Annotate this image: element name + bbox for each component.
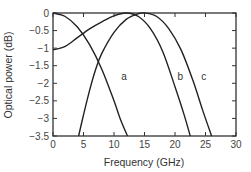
x-axis-label: Frequency (GHz) bbox=[104, 156, 185, 168]
y-tick-label: −1.5 bbox=[29, 60, 49, 71]
y-tick-label: −0.5 bbox=[29, 25, 49, 36]
x-tick-label: 0 bbox=[50, 139, 56, 150]
curve-c bbox=[79, 13, 212, 136]
curve-a bbox=[53, 13, 127, 136]
curve-label-c: c bbox=[201, 71, 206, 82]
curve-label-b: b bbox=[177, 71, 183, 82]
y-tick-label: −1 bbox=[38, 43, 50, 54]
y-axis-label: Optical power (dB) bbox=[2, 32, 14, 119]
x-tick-label: 10 bbox=[108, 139, 120, 150]
y-tick-label: −3.5 bbox=[29, 131, 49, 142]
y-tick-label: −2 bbox=[38, 78, 50, 89]
x-tick-label: 5 bbox=[81, 139, 87, 150]
line-chart: abc 051015202530 0−0.5−1−1.5−2−2.5−3−3.5… bbox=[0, 0, 251, 172]
x-tick-label: 30 bbox=[230, 139, 242, 150]
x-tick-label: 20 bbox=[169, 139, 181, 150]
curves bbox=[53, 13, 212, 136]
x-tick-label: 25 bbox=[200, 139, 212, 150]
x-axis-ticks: 051015202530 bbox=[50, 13, 242, 150]
x-tick-label: 15 bbox=[139, 139, 151, 150]
y-tick-label: −3 bbox=[38, 113, 50, 124]
y-tick-label: 0 bbox=[43, 8, 49, 19]
y-tick-label: −2.5 bbox=[29, 95, 49, 106]
curve-label-a: a bbox=[121, 71, 127, 82]
